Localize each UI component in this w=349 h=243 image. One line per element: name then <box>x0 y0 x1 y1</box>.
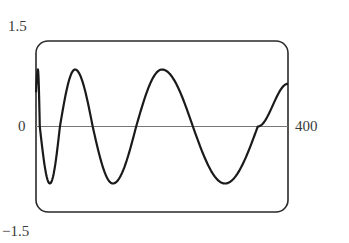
y-tick-top: 1.5 <box>8 18 27 34</box>
y-tick-bottom: −1.5 <box>2 223 29 239</box>
x-tick-right: 400 <box>295 118 318 134</box>
line-chart: 1.5 0 −1.5 400 <box>0 0 349 243</box>
y-tick-zero: 0 <box>18 118 26 134</box>
